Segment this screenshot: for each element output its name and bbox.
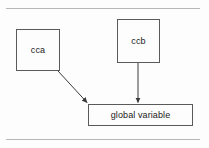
edge-cca-to-global [58, 71, 87, 103]
node-cca[interactable]: cca [16, 29, 60, 71]
node-ccb[interactable]: ccb [117, 19, 160, 63]
node-cca-label: cca [31, 46, 45, 55]
top-horizontal-rule [6, 8, 200, 9]
node-ccb-label: ccb [131, 37, 145, 46]
node-global-variable[interactable]: global variable [88, 104, 193, 126]
node-global-variable-label: global variable [111, 111, 171, 120]
bottom-horizontal-rule [6, 139, 200, 140]
diagram-canvas: cca ccb global variable [0, 0, 209, 148]
